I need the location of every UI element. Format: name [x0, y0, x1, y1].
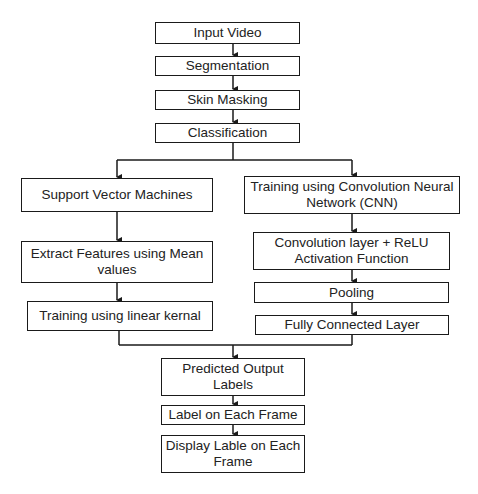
node-display-label: Display Lable on Each Frame: [161, 435, 305, 473]
node-input-video: Input Video: [155, 22, 300, 44]
node-skin-masking: Skin Masking: [155, 90, 300, 110]
node-predicted-labels: Predicted Output Labels: [161, 358, 305, 396]
node-segmentation: Segmentation: [155, 56, 300, 76]
node-pooling: Pooling: [254, 282, 449, 303]
node-extract-features: Extract Features using Mean values: [21, 241, 213, 283]
node-classification: Classification: [155, 123, 300, 143]
node-cnn: Training using Convolution Neural Networ…: [244, 176, 460, 214]
node-conv-relu: Convolution layer + ReLU Activation Func…: [253, 232, 450, 270]
node-linear-kernel: Training using linear kernal: [27, 301, 213, 331]
node-fully-connected: Fully Connected Layer: [255, 315, 449, 335]
node-label-each-frame: Label on Each Frame: [161, 405, 305, 425]
node-svm: Support Vector Machines: [21, 178, 213, 212]
